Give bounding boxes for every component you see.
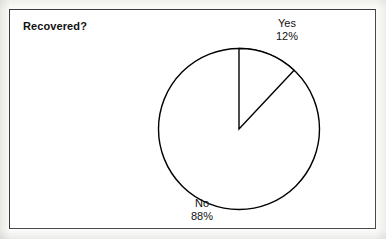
pie-label-yes: Yes 12% (259, 17, 315, 43)
pie-label-no-percent: 88% (174, 210, 230, 223)
chart-frame: Recovered? Yes 12% No 88% (9, 9, 376, 229)
pie-chart-area: Yes 12% No 88% (10, 10, 375, 228)
pie-label-no: No 88% (174, 197, 230, 223)
pie-label-yes-name: Yes (259, 17, 315, 30)
chart-screenshot: Recovered? Yes 12% No 88% (0, 0, 386, 239)
pie-label-yes-percent: 12% (259, 30, 315, 43)
pie-label-no-name: No (174, 197, 230, 210)
